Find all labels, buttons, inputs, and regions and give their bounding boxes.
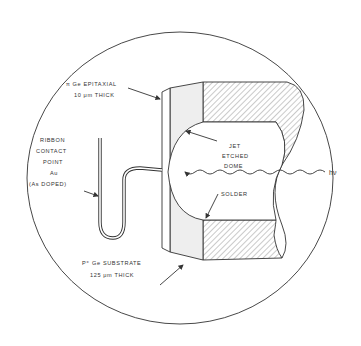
label-dome-3: DOME [224,163,243,169]
label-dome-2: ETCHED [222,153,249,159]
photodiode-cross-section-diagram: π Ge EPITAXIAL 10 μm THICK RIBBON CONTAC… [0,0,361,346]
label-epitaxial-1: π Ge EPITAXIAL [66,81,117,87]
substrate-leader [160,265,183,285]
label-ribbon-5: (As DOPED) [29,181,67,187]
label-substrate-1: P⁺ Ge SUBSTRATE [82,260,141,266]
diagram-stage: π Ge EPITAXIAL 10 μm THICK RIBBON CONTAC… [0,0,361,346]
label-ribbon-2: CONTACT [36,148,67,154]
epitaxial-leader [128,88,160,99]
label-light-hv: hν [329,169,337,176]
label-substrate-2: 125 μm THICK [90,272,134,278]
label-ribbon-4: Au [50,170,58,176]
label-dome-1: JET [229,143,241,149]
ribbon-contact-wire [100,138,162,238]
label-solder: SOLDER [221,191,248,197]
label-ribbon-1: RIBBON [40,137,65,143]
ribbon-leader [84,191,98,196]
label-ribbon-3: POINT [43,159,63,165]
mount-lower-hatched [203,220,282,260]
ribbon-wire-inner [100,138,162,238]
label-epitaxial-2: 10 μm THICK [74,92,115,98]
etched-dome-cavity [168,122,285,220]
